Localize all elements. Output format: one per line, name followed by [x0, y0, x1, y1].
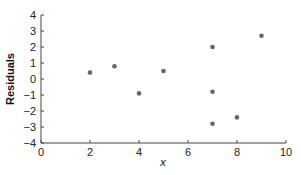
- data-point: [210, 90, 215, 95]
- x-tick-label: 8: [234, 146, 240, 158]
- data-point: [137, 91, 142, 96]
- data-point: [88, 70, 93, 75]
- x-axis-title: x: [159, 156, 166, 168]
- x-tick-label: 6: [185, 146, 191, 158]
- y-tick-label: −3: [23, 121, 36, 133]
- y-tick-label: 1: [30, 57, 36, 69]
- y-tick-label: 2: [30, 41, 36, 53]
- data-point: [210, 122, 215, 127]
- data-points: [88, 34, 264, 127]
- y-tick-label: 3: [30, 25, 36, 37]
- y-tick-label: 0: [30, 73, 36, 85]
- data-point: [235, 115, 240, 120]
- data-point: [161, 69, 166, 74]
- y-axis-title: Residuals: [4, 53, 16, 105]
- y-tick-label: 4: [30, 9, 36, 21]
- data-point: [259, 34, 264, 39]
- data-point: [210, 45, 215, 50]
- y-tick-label: −4: [23, 137, 36, 149]
- x-tick-label: 10: [280, 146, 292, 158]
- data-point: [112, 64, 117, 69]
- residual-scatter-plot: 43210−1−2−3−4 0246810 Residuals x: [0, 0, 301, 175]
- x-tick-label: 2: [87, 146, 93, 158]
- y-tick-label: −2: [23, 105, 36, 117]
- x-tick-label: 0: [38, 146, 44, 158]
- y-tick-label: −1: [23, 89, 36, 101]
- x-tick-label: 4: [136, 146, 142, 158]
